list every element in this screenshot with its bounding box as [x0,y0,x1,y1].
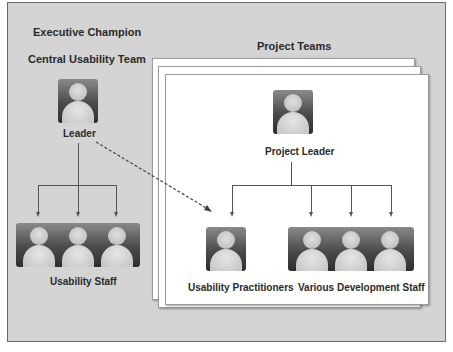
dashed-connector [0,0,453,352]
